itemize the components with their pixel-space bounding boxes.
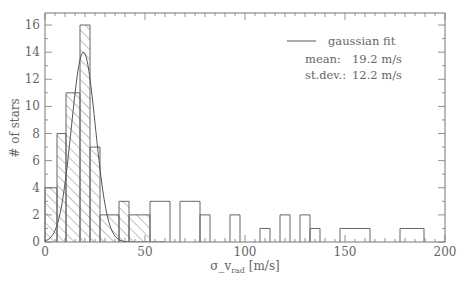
histogram-bar	[180, 201, 200, 242]
x-tick-label: 200	[434, 245, 457, 259]
legend-mean-value: 19.2 m/s	[352, 52, 402, 66]
y-axis-label: # of stars	[8, 98, 22, 157]
histogram-bar	[200, 215, 210, 242]
x-tick-label: 150	[334, 245, 357, 259]
histogram-bar	[300, 215, 310, 242]
y-tick-label: 4	[32, 181, 40, 195]
y-tick-label: 6	[32, 154, 40, 168]
legend-mean-label: mean:	[305, 52, 341, 66]
x-tick-labels: 050100150200	[41, 245, 456, 259]
legend-fit-label: gaussian fit	[328, 34, 396, 48]
y-tick-label: 12	[25, 72, 40, 86]
x-axis-label: σ_vrad [m/s]	[210, 259, 279, 275]
y-tick-label: 10	[25, 99, 40, 113]
histogram-chart: 050100150200 0246810121416 σ_vrad [m/s] …	[0, 0, 465, 285]
x-tick-label: 0	[41, 245, 49, 259]
y-tick-label: 0	[32, 235, 40, 249]
x-tick-label: 100	[234, 245, 257, 259]
histogram-bar	[150, 201, 170, 242]
y-tick-label: 16	[25, 18, 40, 32]
y-tick-label: 14	[25, 45, 41, 59]
histogram-bar	[280, 215, 290, 242]
legend-sd-value: 12.2 m/s	[352, 68, 402, 82]
legend-sd-label: st.dev.:	[305, 68, 346, 82]
histogram-bar	[400, 228, 424, 242]
y-tick-label: 8	[32, 127, 40, 141]
x-tick-label: 50	[137, 245, 152, 259]
y-tick-labels: 0246810121416	[25, 18, 41, 249]
histogram-bar	[230, 215, 240, 242]
legend: gaussian fit mean: 19.2 m/s st.dev.: 12.…	[287, 34, 402, 82]
y-tick-label: 2	[32, 208, 40, 222]
